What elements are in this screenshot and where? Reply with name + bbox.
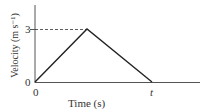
- y-tick-label-3: 3: [25, 24, 31, 35]
- chart-plot: [0, 0, 200, 111]
- x-axis-label: Time (s): [68, 98, 105, 109]
- velocity-line: [35, 29, 152, 82]
- x-tick-label-t: t: [150, 87, 153, 98]
- y-axis-label: Velocity (m s⁻¹): [9, 6, 20, 86]
- y-tick-label-0: 0: [25, 77, 31, 88]
- x-tick-label-0: 0: [33, 87, 39, 98]
